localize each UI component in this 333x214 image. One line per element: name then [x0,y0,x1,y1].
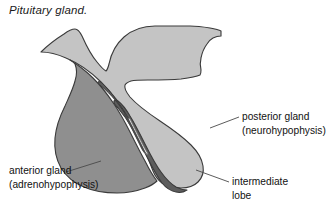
figure-caption: Pituitary gland. [9,4,87,16]
label-posterior-gland-line2: (neurohypophysis) [242,124,326,138]
pituitary-gland-figure: Pituitary gland. posterior gland (neuroh… [0,0,333,214]
label-anterior-gland: anterior gland (adrenohypophysis) [9,164,98,191]
label-anterior-gland-line2: (adrenohypophysis) [9,178,98,192]
label-intermediate-lobe: intermediate lobe [232,175,288,202]
label-posterior-gland-line1: posterior gland [242,111,309,122]
label-intermediate-lobe-line1: intermediate [232,176,288,187]
label-posterior-gland: posterior gland (neurohypophysis) [242,110,326,137]
label-anterior-gland-line1: anterior gland [9,165,71,176]
label-intermediate-lobe-line2: lobe [232,189,288,203]
leader-line-posterior [210,117,239,128]
